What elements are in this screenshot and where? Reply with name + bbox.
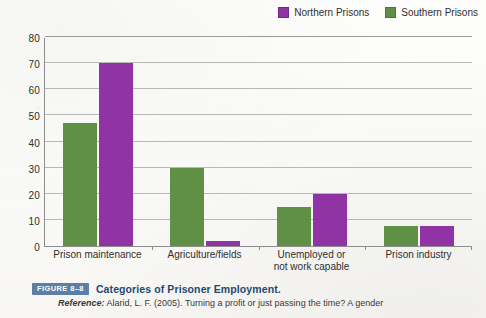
y-tick-label-80: 80 <box>14 33 40 44</box>
x-label-line: not work capable <box>258 261 365 273</box>
reference-label: Reference: <box>58 298 105 308</box>
x-label-line: Prison industry <box>365 249 472 261</box>
bar-northern-0 <box>99 63 133 246</box>
x-label-line: Agriculture/fields <box>151 249 258 261</box>
x-label-2: Unemployed ornot work capable <box>258 249 365 273</box>
gridline-80 <box>45 36 472 37</box>
x-axis-category-labels: Prison maintenanceAgriculture/fieldsUnem… <box>44 249 472 273</box>
figure-caption: FIGURE 8–8 Categories of Prisoner Employ… <box>32 283 478 309</box>
reference-text: Alarid, L. F. (2005). Turning a profit o… <box>105 298 384 308</box>
caption-title-row: FIGURE 8–8 Categories of Prisoner Employ… <box>32 283 478 295</box>
bar-group-2 <box>259 38 366 246</box>
legend-label-northern-prisons: Northern Prisons <box>294 7 369 18</box>
legend-swatch-icon <box>278 7 289 18</box>
chart-plot-area: 01020304050607080 <box>0 26 486 258</box>
plot-frame <box>44 38 472 247</box>
bar-northern-3 <box>420 226 454 246</box>
figure-number-badge: FIGURE 8–8 <box>32 283 89 295</box>
y-axis-tick-labels: 01020304050607080 <box>14 26 40 258</box>
y-tick-label-50: 50 <box>14 111 40 122</box>
figure-reference: Reference: Alarid, L. F. (2005). Turning… <box>58 298 478 309</box>
y-tick-label-40: 40 <box>14 137 40 148</box>
bar-group-0 <box>45 38 152 246</box>
chart-legend: Northern Prisons Southern Prisons <box>278 7 478 18</box>
bar-groups <box>45 38 472 246</box>
y-tick-label-20: 20 <box>14 189 40 200</box>
x-label-3: Prison industry <box>365 249 472 273</box>
legend-item-southern-prisons: Southern Prisons <box>385 7 478 18</box>
legend-label-southern-prisons: Southern Prisons <box>401 7 478 18</box>
x-label-0: Prison maintenance <box>44 249 151 273</box>
x-label-1: Agriculture/fields <box>151 249 258 273</box>
bar-northern-1 <box>206 241 240 246</box>
y-tick-label-30: 30 <box>14 163 40 174</box>
y-tick-label-60: 60 <box>14 85 40 96</box>
legend-item-northern-prisons: Northern Prisons <box>278 7 369 18</box>
bar-southern-2 <box>277 207 311 246</box>
bar-group-3 <box>365 38 472 246</box>
legend-swatch-icon <box>385 7 396 18</box>
y-tick-label-70: 70 <box>14 59 40 70</box>
bar-southern-3 <box>384 226 418 246</box>
y-tick-label-0: 0 <box>14 242 40 253</box>
x-label-line: Unemployed or <box>258 249 365 261</box>
bar-southern-1 <box>170 168 204 246</box>
y-tick-label-10: 10 <box>14 215 40 226</box>
bar-southern-0 <box>63 123 97 246</box>
bar-northern-2 <box>313 194 347 246</box>
figure-title: Categories of Prisoner Employment. <box>96 283 281 295</box>
bar-group-1 <box>152 38 259 246</box>
x-label-line: Prison maintenance <box>44 249 151 261</box>
